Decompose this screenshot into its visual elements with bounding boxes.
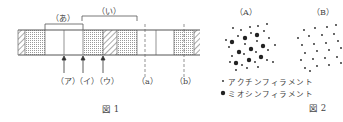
bracket-a <box>45 24 83 30</box>
cross-section-b <box>297 24 342 72</box>
cross-section-a <box>225 23 276 71</box>
bracket-i <box>82 16 137 21</box>
arrow-u <box>101 56 105 73</box>
bracket-label-i: （い） <box>97 5 121 16</box>
panel-label-b: （B） <box>312 6 334 17</box>
figure1-caption: 図 1 <box>102 102 119 114</box>
legend-large-dot-icon <box>221 91 225 95</box>
arrow-a <box>62 56 66 73</box>
sarcomere-bar <box>18 30 200 55</box>
dashed-label-a: （a） <box>137 75 158 86</box>
figure2-caption: 図 2 <box>309 101 326 113</box>
arrow-label-u: （ウ） <box>95 75 119 86</box>
legend-myosin-label: ミオシンフィラメント <box>228 88 313 99</box>
panel-label-a: （A） <box>235 6 257 17</box>
bracket-label-a: （あ） <box>51 12 75 23</box>
dashed-label-b: （b） <box>175 75 196 86</box>
legend-actin-label: アクチンフィラメント <box>228 76 313 87</box>
arrow-i <box>81 56 85 73</box>
legend-small-dot-icon <box>222 80 224 82</box>
